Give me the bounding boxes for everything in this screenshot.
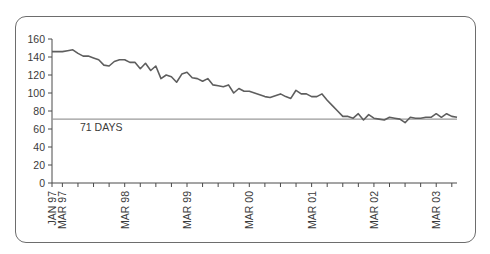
y-tick-label: 0 xyxy=(39,177,45,189)
y-tick-label: 40 xyxy=(33,141,45,153)
y-tick-label: 80 xyxy=(33,105,45,117)
x-axis: JAN 97MAR 97MAR 98MAR 99MAR 00MAR 01MAR … xyxy=(46,183,457,229)
reference-line-label: 71 DAYS xyxy=(80,121,122,133)
line-chart: 020406080100120140160 JAN 97MAR 97MAR 98… xyxy=(0,0,490,254)
y-tick-label: 100 xyxy=(27,87,45,99)
y-tick-label: 160 xyxy=(27,33,45,45)
x-tick-label: MAR 02 xyxy=(368,191,380,229)
x-tick-label: MAR 00 xyxy=(243,191,255,229)
x-tick-label: MAR 01 xyxy=(306,191,318,229)
y-tick-label: 60 xyxy=(33,123,45,135)
y-axis: 020406080100120140160 xyxy=(27,33,52,189)
x-tick-label: MAR 98 xyxy=(119,191,131,229)
x-tick-label: MAR 99 xyxy=(181,191,193,229)
y-tick-label: 120 xyxy=(27,69,45,81)
data-series-line xyxy=(52,50,457,123)
x-tick-label: MAR 03 xyxy=(430,191,442,229)
x-tick-label: MAR 97 xyxy=(56,191,68,229)
y-tick-label: 20 xyxy=(33,159,45,171)
y-tick-label: 140 xyxy=(27,51,45,63)
